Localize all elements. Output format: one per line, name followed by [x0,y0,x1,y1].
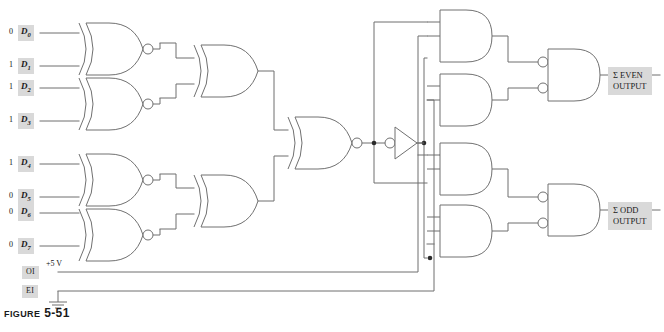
wire-xnor1-to-xor-upper [160,43,194,58]
xor-gate-lower[interactable] [194,175,258,227]
output-label-odd-line1: Σ ODD [613,205,647,216]
input-label-oi: OI [22,266,39,279]
xnor-gate-d4d5[interactable] [79,154,160,206]
input-label-d1: D1 [18,58,34,74]
wire-and3-to-negand-odd [492,169,538,197]
input-label-d2-index: 2 [28,86,31,93]
wire-bus-xnorout-up [374,22,427,143]
wire-xor-upper-to-xnor-final [258,71,288,130]
and-gate-3[interactable] [427,143,492,195]
figure-caption-word: Figure [4,309,40,319]
bit-value-d1: 1 [9,60,13,69]
and-gate-2[interactable] [427,74,492,126]
figure-caption: Figure 5-51 [4,306,70,320]
xnor-gate-d6d7[interactable] [79,209,160,261]
output-label-even-line1: Σ EVEN [613,70,647,81]
input-label-d1-index: 1 [28,64,31,71]
wire-and1-to-negand-even [492,36,538,62]
bit-value-d2: 1 [9,82,13,91]
negative-and-gate-odd[interactable] [538,184,600,236]
input-label-d6-index: 6 [28,211,31,218]
wire-xnor2-to-xor-upper [160,84,194,98]
junction-dots [372,141,445,261]
input-label-d4-index: 4 [28,162,31,169]
bit-value-d3: 1 [9,115,13,124]
bit-value-d7: 0 [9,240,13,249]
figure-page: 0 1 1 1 1 0 0 0 D0 D1 D2 D3 D4 D5 D6 D7 … [0,0,664,332]
bit-value-d5: 0 [9,191,13,200]
input-label-d0: D0 [18,25,34,41]
output-label-even-line2: OUTPUT [613,81,647,92]
bit-value-d4: 1 [9,158,13,167]
input-label-d6: D6 [18,205,34,221]
wire-bus-inv-down [424,143,427,258]
negative-and-gate-even[interactable] [538,49,600,101]
bit-value-d6: 0 [9,207,13,216]
xnor-gate-d2d3[interactable] [79,78,160,130]
input-label-d5-index: 5 [28,195,31,202]
input-label-ei: EI [22,285,38,298]
input-label-d7: D7 [18,238,34,254]
xnor-gate-final[interactable] [288,117,362,169]
output-label-odd-line2: OUTPUT [613,216,647,227]
wire-and2-to-negand-even [492,88,538,100]
wire-xnor3-to-xor-lower [160,174,194,188]
input-label-d5: D5 [18,189,34,205]
xor-gate-upper[interactable] [194,45,258,97]
wire-xor-lower-to-xnor-final [258,156,288,201]
output-label-even: Σ EVEN OUTPUT [608,67,652,95]
and-gate-4[interactable] [427,205,492,257]
supply-voltage-annotation: +5 V [46,259,62,268]
and-gate-1[interactable] [427,10,492,62]
logic-circuit-diagram [0,0,664,332]
input-label-d3-index: 3 [28,119,31,126]
input-label-d7-index: 7 [28,244,31,251]
input-label-d4: D4 [18,156,34,172]
figure-caption-number: 5-51 [44,306,70,320]
xnor-gate-d0d1[interactable] [79,23,160,75]
input-label-d2: D2 [18,80,34,96]
output-label-odd: Σ ODD OUTPUT [608,202,652,230]
input-label-d3: D3 [18,113,34,129]
input-label-d0-index: 0 [28,31,31,38]
bit-value-d0: 0 [9,27,13,36]
wire-xnor4-to-xor-lower [160,214,194,229]
wire-and4-to-negand-odd [492,223,538,231]
